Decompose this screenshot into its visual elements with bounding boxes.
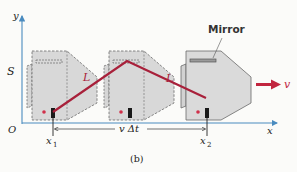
path-left-label: L	[82, 71, 90, 84]
x1-subscript: 1	[53, 141, 57, 149]
origin-label: O	[8, 124, 16, 135]
x-axis-label: x	[267, 125, 273, 136]
detector-icon	[205, 108, 209, 118]
light-source-icon	[42, 110, 46, 114]
clock-3	[181, 51, 251, 120]
x1-label: x	[46, 135, 52, 146]
detector-icon	[128, 108, 132, 118]
x2-label: x	[200, 135, 206, 146]
velocity-arrow	[256, 80, 281, 90]
light-source-icon	[196, 110, 200, 114]
clock-2	[104, 51, 174, 120]
light-source-icon	[119, 110, 123, 114]
x2-subscript: 2	[207, 141, 211, 149]
mirror-icon	[190, 59, 216, 62]
velocity-label: v	[284, 78, 291, 91]
frame-label: S	[7, 65, 15, 78]
figure-caption: (b)	[130, 153, 144, 164]
mirror-label: Mirror	[208, 23, 246, 35]
detector-icon	[51, 108, 55, 118]
light-clock-diagram: y S O x L L Mirror v v Δt x 1 x 2 (b)	[0, 0, 297, 172]
path-right-label: L	[165, 72, 173, 85]
clock-1	[27, 51, 97, 120]
displacement-label: v Δt	[119, 123, 140, 134]
y-axis-label: y	[12, 10, 19, 21]
